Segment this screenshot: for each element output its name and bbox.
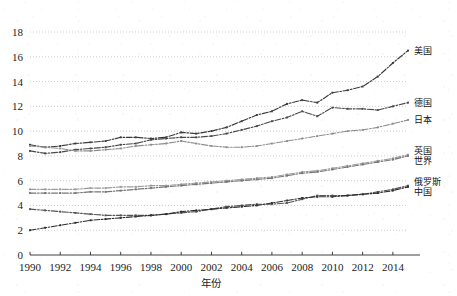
series-marker [301, 138, 303, 140]
series-marker [74, 212, 76, 214]
series-marker [256, 204, 258, 206]
series-marker [241, 206, 243, 208]
series-marker [165, 143, 167, 145]
series-marker [301, 197, 303, 199]
series-marker [256, 145, 258, 147]
series-label: 世界 [414, 155, 432, 166]
series-marker [241, 146, 243, 148]
series-marker [301, 99, 303, 101]
series-line [30, 120, 408, 151]
series-marker [362, 86, 364, 88]
series-marker [331, 196, 333, 198]
series-label: 日本 [414, 114, 432, 125]
y-axis-tick-label: 10 [12, 125, 24, 137]
series-marker [210, 208, 212, 210]
series-marker [150, 144, 152, 146]
series-marker [135, 216, 137, 218]
series-marker [29, 145, 31, 147]
series-marker [120, 190, 122, 192]
series-marker [331, 133, 333, 135]
series-marker [407, 119, 409, 121]
x-axis-tick-label: 2008 [291, 261, 314, 273]
x-axis-tick-labels: 1990199219941996199820002002200420062008… [19, 261, 404, 273]
series-marker [210, 145, 212, 147]
series-line [30, 103, 408, 154]
series-marker [120, 148, 122, 150]
series-line [30, 187, 408, 230]
series-marker [29, 188, 31, 190]
series-marker [286, 140, 288, 142]
series-end-labels: 美国德国日本英国世界俄罗斯中国 [414, 45, 441, 197]
series-marker [74, 192, 76, 194]
series-marker [210, 130, 212, 132]
series-label: 德国 [414, 97, 432, 108]
series-marker [59, 224, 61, 226]
series-marker [331, 92, 333, 94]
series-marker [59, 151, 61, 153]
series-marker [256, 178, 258, 180]
series-marker [180, 136, 182, 138]
series-marker [74, 222, 76, 224]
y-axis-tick-label: 18 [12, 26, 24, 38]
x-axis-tick-label: 1998 [140, 261, 163, 273]
series-marker [241, 129, 243, 131]
series-marker [90, 213, 92, 215]
series-marker [29, 192, 31, 194]
series-label: 美国 [414, 45, 432, 56]
series-marker [362, 108, 364, 110]
series-line [30, 156, 408, 193]
series-lines [29, 50, 409, 232]
x-axis-tick-label: 2014 [382, 261, 405, 273]
series-marker [180, 140, 182, 142]
series-marker [392, 159, 394, 161]
series-marker [105, 218, 107, 220]
series-marker [195, 143, 197, 145]
series-marker [210, 135, 212, 137]
series-marker [135, 143, 137, 145]
series-marker [195, 183, 197, 185]
series-marker [392, 62, 394, 64]
series-marker [286, 103, 288, 105]
series-marker [407, 102, 409, 104]
x-axis-tick-label: 2010 [321, 261, 344, 273]
series-marker [241, 120, 243, 122]
x-axis-tick-label: 2002 [200, 261, 222, 273]
series-marker [256, 125, 258, 127]
series-marker [120, 217, 122, 219]
series-marker [74, 150, 76, 152]
series-marker [316, 115, 318, 117]
x-axis-title: 年份 [201, 277, 222, 289]
series-marker [316, 135, 318, 137]
series-marker [90, 150, 92, 152]
series-marker [301, 110, 303, 112]
series-marker [105, 187, 107, 189]
chart-canvas: 024681012141618 199019921994199619982000… [0, 0, 457, 296]
series-marker [377, 126, 379, 128]
series-marker [195, 133, 197, 135]
series-label: 中国 [414, 186, 432, 197]
x-axis-tick-label: 1992 [49, 261, 71, 273]
series-marker [120, 136, 122, 138]
series-marker [180, 211, 182, 213]
series-marker [90, 141, 92, 143]
axes [30, 252, 420, 255]
series-marker [347, 130, 349, 132]
series-marker [120, 214, 122, 216]
series-marker [286, 175, 288, 177]
series-marker [271, 120, 273, 122]
series-marker [44, 209, 46, 211]
series-marker [135, 145, 137, 147]
series-marker [195, 136, 197, 138]
series-marker [105, 140, 107, 142]
series-marker [105, 214, 107, 216]
series-marker [271, 110, 273, 112]
y-axis-tick-label: 12 [12, 100, 23, 112]
series-marker [150, 139, 152, 141]
series-marker [271, 143, 273, 145]
series-marker [150, 187, 152, 189]
y-axis-tick-label: 0 [18, 249, 24, 261]
x-axis-tick-label: 1996 [110, 261, 133, 273]
series-marker [44, 188, 46, 190]
series-marker [226, 126, 228, 128]
series-marker [59, 145, 61, 147]
